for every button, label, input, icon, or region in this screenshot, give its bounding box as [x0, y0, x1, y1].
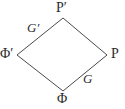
diagram-figure: P′ Φ′ P Φ G′ G — [0, 0, 125, 109]
vertex-label-right: P — [111, 47, 119, 61]
vertex-label-bottom: Φ — [57, 92, 67, 106]
edge-label-upper-left: G′ — [27, 21, 39, 34]
edge-label-lower-right: G — [83, 72, 92, 85]
vertex-label-left: Φ′ — [0, 47, 13, 61]
vertex-label-top: P′ — [56, 1, 67, 15]
